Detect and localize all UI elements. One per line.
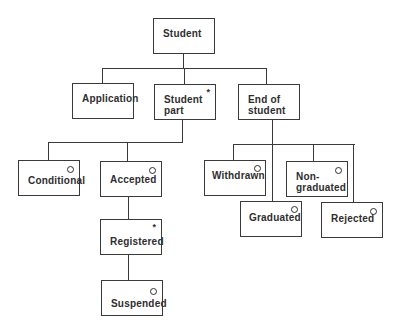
connector [353,144,354,202]
connector [233,144,234,160]
node-accepted: Accepted [100,161,162,197]
connector [266,68,267,84]
connector [128,196,129,219]
selection-marker-icon [67,166,74,173]
connector [272,120,273,201]
node-student: Student [153,18,215,54]
connector [127,142,128,161]
node-label: Non- graduated [296,171,346,193]
node-registered: Registered * [100,219,162,255]
node-student-part: Student part * [154,84,216,120]
node-non-graduated: Non- graduated [286,161,348,197]
connector [313,144,314,161]
node-label: Student [163,28,202,39]
selection-marker-icon [254,165,261,172]
node-label: End of student [248,94,286,116]
jsp-structure-diagram: Student Application Student part * End o… [0,0,401,334]
connector [233,144,355,145]
node-end-of-student: End of student [238,84,300,120]
node-label: Accepted [110,174,157,185]
node-rejected: Rejected [321,202,383,238]
node-application: Application [72,83,134,119]
node-suspended: Suspended [101,280,163,316]
selection-marker-icon [335,167,342,174]
node-label: Application [82,93,139,104]
node-label: Registered [110,236,164,247]
connector [184,68,185,84]
selection-marker-icon [149,167,156,174]
node-label: Student part [164,94,203,116]
node-graduated: Graduated [240,201,302,237]
node-withdrawn: Withdrawn [204,160,266,196]
selection-marker-icon [370,208,377,215]
connector [102,68,103,83]
sequence-iteration-marker: * [152,223,156,232]
node-label: Rejected [331,213,374,224]
node-label: Suspended [111,298,167,309]
connector [48,142,49,160]
sequence-iteration-marker: * [206,88,210,97]
connector [183,53,184,69]
node-label: Graduated [249,212,301,223]
selection-marker-icon [291,206,298,213]
connector [182,120,183,143]
selection-marker-icon [150,288,157,295]
node-conditional: Conditional [18,160,80,196]
node-label: Conditional [28,175,85,186]
connector [128,254,129,280]
connector [48,142,183,143]
